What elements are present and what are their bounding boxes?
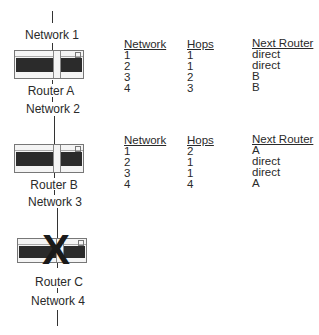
network-3-label: Network 3 bbox=[5, 195, 105, 209]
header-network: Network bbox=[124, 38, 166, 50]
cell-next-router: direct bbox=[252, 60, 313, 71]
router-b-icon bbox=[14, 144, 84, 173]
router-a-icon bbox=[14, 50, 84, 79]
header-next-router: Next Router bbox=[252, 133, 313, 145]
router-a-label: Router A bbox=[1, 84, 101, 98]
header-network: Network bbox=[124, 134, 166, 146]
cell-hops: 4 bbox=[187, 179, 214, 190]
network-1-label: Network 1 bbox=[2, 28, 102, 42]
failure-x-icon: X bbox=[42, 229, 70, 271]
router-b-label: Router B bbox=[4, 178, 104, 192]
cell-next-router: direct bbox=[252, 167, 313, 178]
network-1-router-a-link bbox=[52, 43, 53, 50]
cell-network: 1 bbox=[124, 50, 166, 61]
cell-network: 1 bbox=[124, 146, 166, 157]
cell-network: 4 bbox=[124, 179, 166, 190]
network-1-link bbox=[52, 11, 53, 23]
network-4-label: Network 4 bbox=[8, 294, 108, 308]
cell-network: 3 bbox=[124, 72, 166, 83]
cell-network: 2 bbox=[124, 157, 166, 168]
router-c-label: Router C bbox=[9, 275, 109, 289]
cell-network: 2 bbox=[124, 61, 166, 72]
cell-next-router: B bbox=[252, 71, 313, 82]
cell-next-router: B bbox=[252, 82, 313, 93]
network-4-link bbox=[57, 310, 58, 326]
cell-hops: 3 bbox=[187, 83, 214, 94]
cell-network: 3 bbox=[124, 168, 166, 179]
network-2-router-b-link bbox=[54, 116, 55, 144]
network-2-label: Network 2 bbox=[3, 102, 103, 116]
cell-network: 4 bbox=[124, 83, 166, 94]
cell-next-router: A bbox=[252, 178, 313, 189]
